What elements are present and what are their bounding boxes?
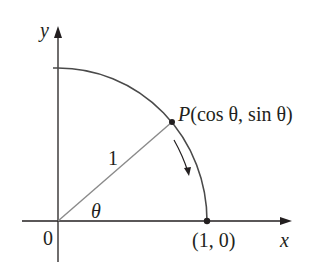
direction-arrow-head-icon (184, 167, 191, 176)
radius-line (58, 122, 172, 221)
point-p-label: P(cos θ, sin θ) (178, 104, 293, 124)
point-p-name: P (178, 103, 190, 125)
x-axis-label: x (280, 230, 289, 250)
y-axis-label: y (40, 20, 49, 40)
x-axis-arrow-icon (280, 217, 292, 225)
point-p-dot (169, 119, 175, 125)
origin-label: 0 (43, 228, 53, 248)
unit-circle-arc (53, 68, 207, 221)
direction-arrow (174, 140, 188, 172)
x-intercept-label: (1, 0) (192, 230, 235, 250)
radius-label: 1 (108, 148, 118, 168)
point-x-intercept-dot (204, 218, 210, 224)
point-p-coords: (cos θ, sin θ) (190, 103, 292, 125)
angle-label: θ (91, 201, 101, 221)
y-axis-arrow-icon (54, 26, 62, 38)
